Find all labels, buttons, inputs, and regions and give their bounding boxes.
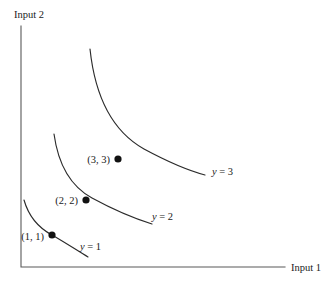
data-point-label-3-3: (3, 3) xyxy=(87,154,110,166)
data-point-label-1-1: (1, 1) xyxy=(21,231,44,243)
isoquant-curve-y1 xyxy=(24,200,88,257)
curve-label-y2: y = 2 xyxy=(151,211,173,222)
curve-label-y2-eq: = 2 xyxy=(157,211,173,222)
isoquant-curve-y2 xyxy=(54,134,152,224)
data-point-label-2-2: (2, 2) xyxy=(55,195,78,207)
curve-label-y3: y = 3 xyxy=(211,166,233,177)
data-point-marker-3-3 xyxy=(114,155,121,162)
isoquant-chart-canvas: Input 2 Input 1 y = 1 y = 2 y = 3 (3, 3)… xyxy=(0,0,336,284)
y-axis-label: Input 2 xyxy=(14,9,44,20)
curve-label-y1: y = 1 xyxy=(79,241,101,252)
x-axis-label: Input 1 xyxy=(291,262,321,273)
curve-label-y1-eq: = 1 xyxy=(85,241,101,252)
data-point-marker-1-1 xyxy=(48,231,55,238)
data-point-marker-2-2 xyxy=(82,196,89,203)
isoquant-figure: Input 2 Input 1 y = 1 y = 2 y = 3 (3, 3)… xyxy=(0,0,336,284)
axis-frame xyxy=(21,26,285,267)
curve-label-y3-eq: = 3 xyxy=(217,166,233,177)
